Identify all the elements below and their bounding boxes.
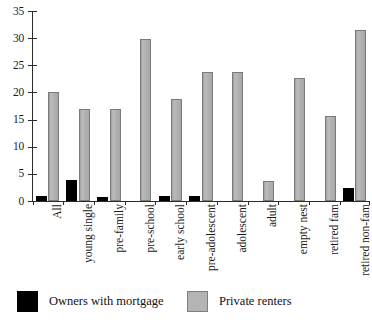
x-axis-label-pre-school: pre-school [145,204,157,253]
x-axis-label-text: young single [83,204,95,263]
x-axis-label-text: retired non-fam [360,204,372,276]
bar-private-renters [325,116,336,201]
bar-group [155,11,186,201]
x-axis-label-retired-non-fam: retired non-fam [360,204,372,276]
x-axis-label-text: pre-school [145,204,157,253]
legend-swatch-gray-square [187,291,208,312]
y-tick-label-35: 35 [13,6,24,18]
x-axis-label-pre-family: pre-family [114,204,126,253]
x-axis-label-text: retired fam [329,204,341,255]
x-axis-line [32,201,370,202]
y-tick-label-30: 30 [13,33,24,45]
y-tick-label-10: 10 [13,141,24,153]
legend-item-owners-with-mortgage: Owners with mortgage [17,289,164,313]
x-axis-label-text: pre-adolescent [206,204,218,271]
bar-private-renters [202,72,213,201]
bar-private-renters [110,109,121,201]
bar-chart-figure: 05101520253035 Allyoung singlepre-family… [0,0,372,323]
legend-label-private-renters: Private renters [219,295,292,308]
x-axis-label-retired-fam: retired fam [329,204,341,255]
bar-owners-with-mortgage [189,196,200,201]
legend-label-owners-with-mortgage: Owners with mortgage [49,295,164,308]
bar-private-renters [355,30,366,201]
x-axis-label-young-single: young single [83,204,95,263]
bar-group [124,11,155,201]
y-tick-label-0: 0 [18,196,24,208]
x-axis-label-text: early school [175,204,187,260]
x-axis-label-text: empty nest [298,204,310,254]
bar-group [216,11,247,201]
x-axis-label-text: All [52,204,64,219]
bar-private-renters [79,109,90,201]
x-axis-label-adolescent: adolescent [237,204,249,253]
x-axis-label-text: pre-family [114,204,126,253]
x-axis-label-text: adult [267,204,279,227]
y-tick-label-20: 20 [13,87,24,99]
bar-group [339,11,370,201]
bar-owners-with-mortgage [343,188,354,201]
bar-owners-with-mortgage [66,180,77,201]
bar-private-renters [232,72,243,201]
bar-group [309,11,340,201]
bar-private-renters [171,99,182,201]
bar-private-renters [294,78,305,201]
bar-owners-with-mortgage [36,196,47,201]
x-axis-label-early-school: early school [175,204,187,260]
bar-group [278,11,309,201]
x-axis-label-adult: adult [267,204,279,227]
bar-group [63,11,94,201]
bar-group [186,11,217,201]
chart-legend: Owners with mortgage Private renters [17,289,357,317]
y-tick-label-15: 15 [13,114,24,126]
bar-owners-with-mortgage [97,197,108,201]
legend-swatch-black-square [17,291,38,312]
bar-group [32,11,63,201]
x-axis-label-text: adolescent [237,204,249,253]
x-axis-label-empty-nest: empty nest [298,204,310,254]
bar-private-renters [48,92,59,201]
x-axis-label-all: All [52,204,64,219]
bar-private-renters [140,39,151,201]
x-axis-label-pre-adolescent: pre-adolescent [206,204,218,271]
x-axis-labels: Allyoung singlepre-familypre-schoolearly… [32,204,370,290]
y-tick-label-25: 25 [13,60,24,72]
bar-group [247,11,278,201]
bar-private-renters [263,181,274,201]
plot-area: 05101520253035 [32,11,370,202]
y-tick-label-5: 5 [18,169,24,181]
legend-item-private-renters: Private renters [187,289,292,313]
bar-owners-with-mortgage [159,196,170,201]
bar-group [93,11,124,201]
